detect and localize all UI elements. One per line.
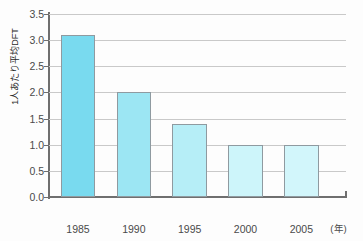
y-axis-tick-label: 1.5 bbox=[18, 113, 44, 125]
y-axis-tick-mark bbox=[44, 119, 49, 120]
y-axis-tick-label: 2.5 bbox=[18, 60, 44, 72]
x-axis-end-tick bbox=[345, 191, 347, 198]
y-axis-tick-mark bbox=[44, 197, 49, 198]
gridline bbox=[49, 14, 346, 15]
x-axis-tick-label: 2005 bbox=[290, 223, 313, 235]
y-axis-tick-mark bbox=[44, 14, 49, 15]
x-axis-tick-label: 1990 bbox=[122, 223, 145, 235]
y-axis-tick-label: 3.5 bbox=[18, 8, 44, 20]
y-axis-tick-mark bbox=[44, 171, 49, 172]
x-axis-unit-label: (年) bbox=[330, 221, 346, 235]
bar bbox=[172, 124, 207, 197]
y-axis-tick-label: 0.0 bbox=[18, 191, 44, 203]
x-axis-tick-label: 1995 bbox=[178, 223, 201, 235]
y-axis-tick-mark bbox=[44, 145, 49, 146]
x-axis-tick-label: 2000 bbox=[234, 223, 257, 235]
y-axis-tick-mark bbox=[44, 92, 49, 93]
y-axis-tick-label: 3.0 bbox=[18, 34, 44, 46]
y-axis-tick-label: 1.0 bbox=[18, 139, 44, 151]
y-axis-tick-mark bbox=[44, 66, 49, 67]
bar bbox=[284, 145, 319, 197]
plot-area bbox=[49, 14, 346, 197]
y-axis-tick-labels: 0.00.51.01.52.02.53.03.5 bbox=[16, 0, 44, 241]
y-axis-tick-label: 2.0 bbox=[18, 86, 44, 98]
bar bbox=[228, 145, 263, 197]
bar bbox=[61, 35, 96, 197]
x-axis-tick-label: 1985 bbox=[66, 223, 89, 235]
y-axis-tick-mark bbox=[44, 40, 49, 41]
bar bbox=[117, 92, 152, 197]
y-axis-tick-label: 0.5 bbox=[18, 165, 44, 177]
bar-chart: 1人あたり平均DFT 0.00.51.01.52.02.53.03.5 1985… bbox=[0, 0, 363, 241]
